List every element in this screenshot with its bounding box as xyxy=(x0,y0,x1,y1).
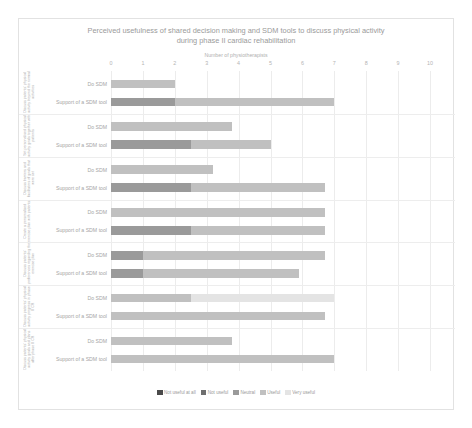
bar-row: Do SDM xyxy=(111,294,430,303)
legend-item[interactable]: Neutral xyxy=(233,390,255,396)
bar-segment[interactable] xyxy=(111,208,325,217)
bar-row: Support of a SDM tool xyxy=(111,269,430,278)
bar-row-label: Do SDM xyxy=(87,338,107,344)
gridline xyxy=(175,71,176,371)
bar-segment[interactable] xyxy=(191,294,335,303)
bar-row: Support of a SDM tool xyxy=(111,98,430,107)
x-tick-label: 4 xyxy=(237,60,240,66)
x-tick-label: 0 xyxy=(110,60,113,66)
bar-row: Do SDM xyxy=(111,208,430,217)
legend-swatch xyxy=(285,390,291,396)
bar-row: Do SDM xyxy=(111,337,430,346)
stacked-bar[interactable] xyxy=(111,269,299,278)
bar-row: Support of a SDM tool xyxy=(111,355,430,364)
bar-segment[interactable] xyxy=(111,294,191,303)
y-axis-group-label: Discuss barriers and facilitators of goa… xyxy=(23,157,81,200)
bar-row: Do SDM xyxy=(111,80,430,89)
legend-swatch xyxy=(233,390,239,396)
bar-row-label: Do SDM xyxy=(87,124,107,130)
stacked-bar[interactable] xyxy=(111,183,325,192)
bar-row-label: Support of a SDM tool xyxy=(56,185,107,191)
chart-title: Perceived usefulness of shared decision … xyxy=(19,26,453,46)
group-separator xyxy=(19,157,455,158)
bar-row-label: Support of a SDM tool xyxy=(56,142,107,148)
bar-segment[interactable] xyxy=(111,165,213,174)
stacked-bar[interactable] xyxy=(111,122,232,131)
bar-row-label: Do SDM xyxy=(87,252,107,258)
group-separator xyxy=(19,200,455,201)
bar-segment[interactable] xyxy=(111,251,143,260)
legend-label: Not useful xyxy=(208,390,229,395)
bar-segment[interactable] xyxy=(143,251,325,260)
stacked-bar[interactable] xyxy=(111,337,232,346)
group-label-wrap: Create a personalised exercise plan with… xyxy=(111,200,112,243)
gridline xyxy=(207,71,208,371)
gridline xyxy=(271,71,272,371)
bar-segment[interactable] xyxy=(191,226,325,235)
group-label-wrap: Discuss patients' physical activity prog… xyxy=(111,285,112,328)
x-tick-label: 8 xyxy=(365,60,368,66)
gridline xyxy=(334,71,335,371)
bar-row-label: Support of a SDM tool xyxy=(56,99,107,105)
group-separator xyxy=(19,285,455,286)
chart-title-line-2: during phase II cardiac rehabilitation xyxy=(19,36,453,46)
legend-item[interactable]: Not useful xyxy=(201,390,229,396)
x-tick-label: 1 xyxy=(141,60,144,66)
group-label-wrap: Discuss patients' physical activity goal… xyxy=(111,328,112,371)
stacked-bar[interactable] xyxy=(111,355,334,364)
x-axis-title: Number of physiotherapists xyxy=(19,52,453,58)
bar-segment[interactable] xyxy=(111,312,325,321)
bar-segment[interactable] xyxy=(175,98,335,107)
stacked-bar[interactable] xyxy=(111,294,334,303)
bar-row-label: Do SDM xyxy=(87,209,107,215)
legend-swatch xyxy=(260,390,266,396)
stacked-bar[interactable] xyxy=(111,98,334,107)
bar-segment[interactable] xyxy=(111,226,191,235)
legend-item[interactable]: Not useful at all xyxy=(157,390,196,396)
bar-segment[interactable] xyxy=(111,140,191,149)
stacked-bar[interactable] xyxy=(111,165,213,174)
gridline xyxy=(398,71,399,371)
bar-segment[interactable] xyxy=(111,98,175,107)
bar-segment[interactable] xyxy=(111,337,232,346)
group-label-wrap: Discuss patients' preferences regarding … xyxy=(111,242,112,285)
x-tick-label: 3 xyxy=(205,60,208,66)
bar-segment[interactable] xyxy=(111,355,334,364)
bar-row: Support of a SDM tool xyxy=(111,226,430,235)
bar-segment[interactable] xyxy=(191,140,271,149)
x-tick-label: 5 xyxy=(269,60,272,66)
legend-label: Useful xyxy=(267,390,280,395)
y-axis-group-label: Create a personalised exercise plan with… xyxy=(23,200,81,243)
bar-row-label: Support of a SDM tool xyxy=(56,356,107,362)
bar-row-label: Support of a SDM tool xyxy=(56,270,107,276)
stacked-bar[interactable] xyxy=(111,312,325,321)
gridline xyxy=(302,71,303,371)
gridline xyxy=(239,71,240,371)
group-label-wrap: Discuss patients' physical activity beyo… xyxy=(111,71,112,114)
x-tick-label: 7 xyxy=(333,60,336,66)
bar-row: Do SDM xyxy=(111,122,430,131)
legend-label: Not useful at all xyxy=(164,390,196,395)
bar-row: Support of a SDM tool xyxy=(111,183,430,192)
stacked-bar[interactable] xyxy=(111,140,271,149)
bar-segment[interactable] xyxy=(111,183,191,192)
legend-item[interactable]: Very useful xyxy=(285,390,315,396)
bar-segment[interactable] xyxy=(143,269,299,278)
y-axis-group-label: Discuss patients' physical activity goal… xyxy=(23,328,81,371)
legend-item[interactable]: Useful xyxy=(260,390,280,396)
group-separator xyxy=(19,242,455,243)
stacked-bar[interactable] xyxy=(111,251,325,260)
stacked-bar[interactable] xyxy=(111,226,325,235)
stacked-bar[interactable] xyxy=(111,80,175,89)
stacked-bar[interactable] xyxy=(111,208,325,217)
gridline xyxy=(366,71,367,371)
chart-container: Perceived usefulness of shared decision … xyxy=(18,18,454,410)
group-separator xyxy=(19,328,455,329)
group-label-wrap: Set personalised physical activity goals… xyxy=(111,114,112,157)
bar-segment[interactable] xyxy=(191,183,325,192)
bar-segment[interactable] xyxy=(111,269,143,278)
plot-area: 012345678910Discuss patients' physical a… xyxy=(111,71,430,371)
legend-swatch xyxy=(201,390,207,396)
bar-segment[interactable] xyxy=(111,122,232,131)
bar-segment[interactable] xyxy=(111,80,175,89)
